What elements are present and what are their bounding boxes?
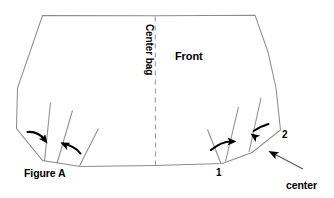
right-fold-arrow-2-curve <box>254 124 269 131</box>
left-tuck-line-2 <box>57 111 73 164</box>
right-tuck-line-2 <box>226 107 239 162</box>
center-tuck-callout-label: center tuck <box>286 156 317 198</box>
corner-marker-1-label: 1 <box>216 167 221 178</box>
figure-a-diagram: Front Center bag Figure A 1 2 center tuc… <box>0 0 334 198</box>
right-tuck-line-3 <box>249 98 261 152</box>
corner-marker-2-label: 2 <box>282 129 287 140</box>
front-panel-label: Front <box>175 50 203 62</box>
right-fold-arrow-2-head <box>248 130 260 142</box>
left-tuck-line-1 <box>45 103 51 162</box>
center-tuck-leader-head <box>267 147 280 159</box>
right-fold-arrow-1 <box>211 138 237 151</box>
left-tuck-line-3 <box>80 129 99 167</box>
center-tuck-callout-line-1: center <box>286 180 317 192</box>
figure-caption: Figure A <box>24 168 65 180</box>
right-fold-arrow-2 <box>248 124 268 142</box>
center-bag-label: Center bag <box>143 14 154 86</box>
